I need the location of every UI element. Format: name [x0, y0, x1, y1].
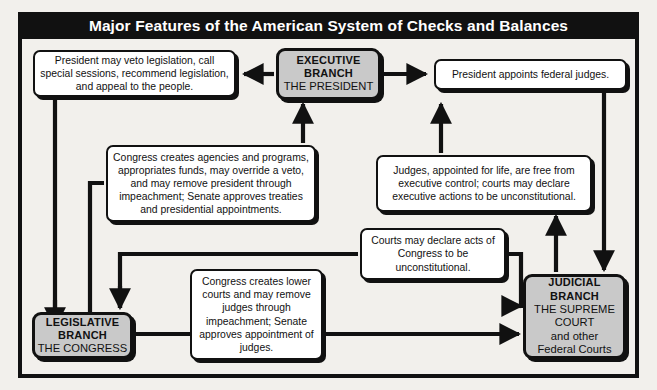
diagram-page: Major Features of the American System of… [0, 0, 657, 390]
branch-judicial-subtitle-2: COURT [555, 316, 595, 329]
branch-legislative-heading-1: LEGISLATIVE [46, 316, 120, 329]
branch-judicial-subtitle-3: and other [551, 330, 598, 343]
note-courts-declare-congress-text: Courts may declare acts of Congress to b… [362, 234, 504, 273]
branch-judicial: JUDICIAL BRANCH THE SUPREME COURT and ot… [523, 274, 626, 359]
branch-judicial-subtitle-4: Federal Courts [538, 343, 612, 356]
note-judges-life-text: Judges, appointed for life, are free fro… [378, 164, 590, 203]
branch-executive-subtitle: THE PRESIDENT [284, 80, 374, 93]
branch-judicial-heading-2: BRANCH [550, 290, 599, 303]
page-title: Major Features of the American System of… [89, 17, 568, 35]
note-congress-lower-courts: Congress creates lower courts and may re… [190, 269, 323, 360]
branch-judicial-subtitle-1: THE SUPREME [534, 303, 615, 316]
branch-executive-heading-1: EXECUTIVE [296, 54, 360, 67]
note-president-appoints-text: President appoints federal judges. [447, 68, 614, 81]
note-congress-agencies-text: Congress creates agencies and programs, … [108, 151, 314, 217]
note-president-appoints: President appoints federal judges. [434, 59, 627, 90]
branch-executive-heading-2: BRANCH [304, 67, 353, 80]
diagram-title-bar: Major Features of the American System of… [18, 12, 639, 39]
branch-executive: EXECUTIVE BRANCH THE PRESIDENT [276, 48, 381, 100]
branch-legislative-subtitle: THE CONGRESS [38, 342, 128, 355]
note-congress-lower-courts-text: Congress creates lower courts and may re… [192, 275, 321, 354]
note-congress-agencies: Congress creates agencies and programs, … [106, 145, 316, 222]
branch-legislative-heading-2: BRANCH [58, 329, 107, 342]
note-courts-declare-congress: Courts may declare acts of Congress to b… [360, 228, 506, 280]
branch-legislative: LEGISLATIVE BRANCH THE CONGRESS [32, 312, 133, 359]
branch-judicial-heading-1: JUDICIAL [548, 276, 600, 289]
note-judges-life: Judges, appointed for life, are free fro… [376, 155, 592, 212]
note-president-powers: President may veto legislation, call spe… [33, 50, 236, 97]
note-president-powers-text: President may veto legislation, call spe… [35, 54, 234, 93]
